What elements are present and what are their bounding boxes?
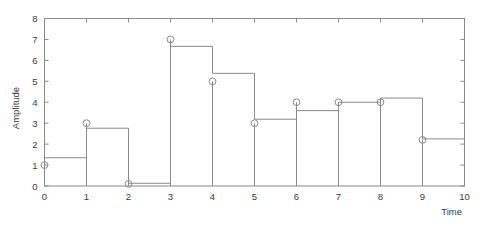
- y-tick-label: 0: [32, 181, 37, 192]
- y-tick-label: 5: [32, 76, 37, 87]
- x-tick-label: 5: [252, 191, 257, 202]
- x-tick-label: 8: [378, 191, 383, 202]
- x-tick-label: 3: [168, 191, 173, 202]
- x-tick-label: 10: [459, 191, 470, 202]
- x-tick-label: 4: [210, 191, 215, 202]
- x-tick-label: 7: [336, 191, 341, 202]
- y-tick-label: 4: [32, 97, 37, 108]
- x-tick-labels: 012345678910: [42, 191, 470, 202]
- x-tick-label: 6: [294, 191, 299, 202]
- y-axis-ticks: [45, 19, 49, 187]
- y-tick-label: 8: [32, 13, 37, 24]
- chart-figure: 012345678910 012345678 Time Amplitude: [0, 0, 487, 240]
- x-tick-label: 2: [126, 191, 131, 202]
- x-tick-label: 9: [420, 191, 425, 202]
- y-tick-label: 7: [32, 34, 37, 45]
- step-plot: 012345678910 012345678 Time Amplitude: [0, 0, 487, 240]
- x-tick-label: 1: [84, 191, 89, 202]
- x-axis-title: Time: [441, 206, 462, 217]
- y-tick-label: 3: [32, 118, 37, 129]
- y-tick-labels: 012345678: [32, 13, 37, 192]
- y-axis-title: Amplitude: [10, 87, 21, 129]
- sample-markers: [41, 36, 426, 187]
- y-axis-ticks-right: [461, 19, 465, 187]
- y-tick-label: 2: [32, 139, 37, 150]
- y-tick-label: 1: [32, 160, 37, 171]
- x-tick-label: 0: [42, 191, 47, 202]
- x-axis-ticks-top: [45, 19, 465, 23]
- y-tick-label: 6: [32, 55, 37, 66]
